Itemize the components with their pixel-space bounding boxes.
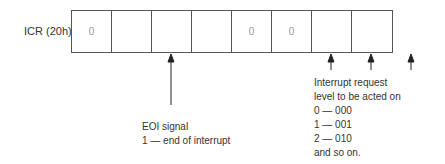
level-arrow-head-icon [408,54,414,62]
level-arrow-head-icon [368,54,374,62]
level-subtitle: level to be acted on [314,90,401,104]
eoi-note: EOI signal 1 — end of interrupt [142,120,230,148]
level-arrow-head-icon [328,54,334,62]
level-code-2: 2 — 010 [314,132,401,146]
level-title: Interrupt request [314,76,401,90]
eoi-arrow-head-icon [168,54,174,62]
level-etc: and so on. [314,146,401,160]
eoi-title: EOI signal [142,120,230,134]
eoi-desc: 1 — end of interrupt [142,134,230,148]
level-note: Interrupt request level to be acted on 0… [314,76,401,160]
level-code-0: 0 — 000 [314,104,401,118]
level-code-1: 1 — 001 [314,118,401,132]
